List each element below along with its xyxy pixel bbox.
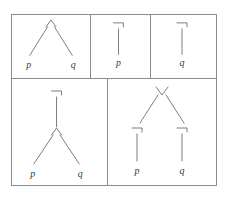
negated-conjunction-tree: p q — [12, 79, 107, 185]
edge-and-to-right-leaf — [60, 135, 79, 164]
and-operator-icon — [52, 128, 62, 135]
edge-or-to-right-not — [166, 95, 184, 123]
edge-root-to-right-leaf — [54, 27, 72, 56]
leaf-label-p: p — [25, 59, 31, 70]
leaf-label-q: q — [180, 165, 185, 176]
edge-or-to-left-not — [140, 95, 158, 123]
edge-root-to-left-leaf — [30, 27, 48, 56]
not-operator-icon — [114, 23, 124, 27]
leaf-label-p: p — [29, 168, 35, 179]
and-operator-icon — [46, 20, 56, 27]
not-operator-icon — [177, 23, 187, 27]
logic-tree-figure: p q p ∧ q p ¬ p q ¬ q — [0, 0, 228, 199]
not-operator-icon-right — [177, 128, 187, 132]
not-operator-icon — [52, 91, 62, 95]
conjunction-tree: p q — [12, 15, 90, 78]
cell-negated-conjunction: p q ¬ (p ∧ q) — [12, 79, 108, 185]
leaf-label-q: q — [78, 168, 83, 179]
leaf-label-q: q — [71, 59, 76, 70]
cell-negation-q: q ¬ q — [151, 15, 216, 79]
disjunction-of-negations-tree: p q — [108, 79, 216, 185]
leaf-label-q: q — [180, 57, 185, 68]
or-operator-icon — [156, 87, 168, 95]
leaf-label-p: p — [115, 57, 121, 68]
cell-conjunction: p q p ∧ q — [12, 15, 91, 79]
negation-p-tree: p — [91, 15, 150, 78]
tree-grid: p q p ∧ q p ¬ p q ¬ q — [11, 14, 217, 186]
cell-disjunction-of-negations: p q ¬ p ∨ ¬ q — [108, 79, 216, 185]
edge-and-to-left-leaf — [34, 135, 53, 164]
leaf-label-p: p — [134, 165, 140, 176]
cell-negation-p: p ¬ p — [91, 15, 151, 79]
not-operator-icon-left — [132, 128, 142, 132]
negation-q-tree: q — [151, 15, 216, 78]
